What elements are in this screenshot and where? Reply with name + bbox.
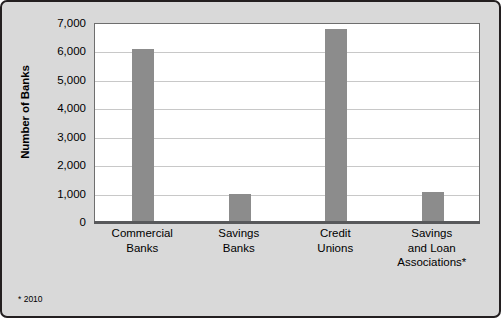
category-label-line: and Loan bbox=[377, 241, 487, 256]
category-label-line: Banks bbox=[184, 241, 294, 256]
bar bbox=[132, 49, 154, 222]
category-label-line: Banks bbox=[87, 241, 197, 256]
category-label: CreditUnions bbox=[280, 226, 390, 255]
y-tick-label: 5,000 bbox=[57, 74, 86, 86]
y-axis-title: Number of Banks bbox=[14, 2, 36, 222]
y-tick-label: 2,000 bbox=[57, 159, 86, 171]
y-tick-label: 1,000 bbox=[57, 188, 86, 200]
bar-chart-card: Number of Banks 01,0002,0003,0004,0005,0… bbox=[0, 0, 501, 318]
category-label-line: Unions bbox=[280, 241, 390, 256]
category-label: CommercialBanks bbox=[87, 226, 197, 255]
x-axis-category-labels: CommercialBanksSavingsBanksCreditUnionsS… bbox=[94, 226, 480, 286]
y-axis-title-text: Number of Banks bbox=[19, 65, 31, 159]
category-label: Savingsand LoanAssociations* bbox=[377, 226, 487, 270]
x-axis-baseline bbox=[94, 221, 480, 224]
y-tick-label: 0 bbox=[80, 216, 86, 228]
y-axis-tick-labels: 01,0002,0003,0004,0005,0006,0007,000 bbox=[36, 23, 90, 222]
category-label-line: Credit bbox=[280, 226, 390, 241]
category-label-line: Savings bbox=[184, 226, 294, 241]
bars-layer bbox=[95, 24, 479, 222]
category-label-line: Commercial bbox=[87, 226, 197, 241]
category-label-line: Associations* bbox=[377, 255, 487, 270]
y-tick-label: 3,000 bbox=[57, 131, 86, 143]
category-label-line: Savings bbox=[377, 226, 487, 241]
footnote: * 2010 bbox=[18, 294, 43, 304]
plot-area bbox=[94, 23, 480, 222]
bar bbox=[325, 29, 347, 222]
y-tick-label: 6,000 bbox=[57, 45, 86, 57]
bar bbox=[422, 192, 444, 222]
bar bbox=[229, 194, 251, 222]
y-tick-label: 4,000 bbox=[57, 102, 86, 114]
y-tick-label: 7,000 bbox=[57, 17, 86, 29]
category-label: SavingsBanks bbox=[184, 226, 294, 255]
